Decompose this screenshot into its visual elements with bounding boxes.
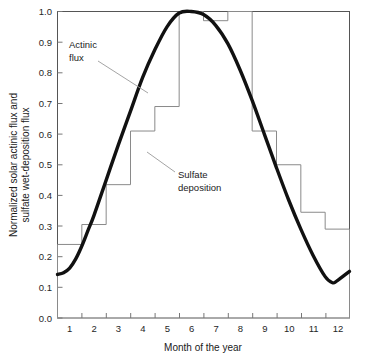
actinic-flux-leader-line [98, 61, 148, 93]
x-tick-label: 6 [189, 323, 194, 334]
y-tick-label: 0.3 [39, 221, 52, 232]
y-axis-title-line1: Normalized solar actinic flux and [8, 93, 19, 237]
actinic-flux-annotation: Actinic flux [69, 39, 148, 93]
x-tick-label: 10 [284, 323, 295, 334]
x-tick-label: 4 [140, 323, 145, 334]
actinic-flux-label-line2: flux [69, 52, 84, 63]
x-tick-label: 8 [238, 323, 243, 334]
y-tick-label: 0.4 [39, 190, 52, 201]
y-tick-label: 0.1 [39, 282, 52, 293]
y-axis-title-line2: sulfate wet-deposition flux [20, 107, 31, 222]
y-tick-label: 0.7 [39, 98, 52, 109]
sulfate-deposition-label-line1: Sulfate [178, 169, 208, 180]
x-tick-label: 5 [165, 323, 170, 334]
y-tick-label: 1.0 [39, 6, 52, 17]
actinic-flux-curve [58, 11, 350, 283]
x-tick-label: 2 [91, 323, 96, 334]
y-axis-title: Normalized solar actinic flux and sulfat… [8, 93, 31, 237]
plot-frame [58, 12, 350, 319]
y-axis-tick-labels: 0.0 0.1 0.2 0.3 0.4 0.5 0.6 0.7 0.8 0.9 … [39, 6, 52, 324]
x-tick-label: 9 [262, 323, 267, 334]
sulfate-deposition-annotation: Sulfate deposition [147, 152, 221, 193]
sulfate-deposition-label-line2: deposition [178, 182, 221, 193]
y-tick-label: 0.0 [39, 313, 52, 324]
chart-figure: 0.0 0.1 0.2 0.3 0.4 0.5 0.6 0.7 0.8 0.9 … [0, 0, 367, 358]
x-tick-label: 3 [116, 323, 121, 334]
x-tick-label: 7 [213, 323, 218, 334]
actinic-flux-label-line1: Actinic [69, 39, 97, 50]
y-tick-label: 0.9 [39, 37, 52, 48]
y-tick-label: 0.5 [39, 159, 52, 170]
x-tick-label: 12 [333, 323, 344, 334]
chart-plot: 0.0 0.1 0.2 0.3 0.4 0.5 0.6 0.7 0.8 0.9 … [0, 0, 367, 358]
x-axis-tick-labels: 1 2 3 4 5 6 7 8 9 10 11 12 [67, 323, 343, 334]
y-tick-label: 0.6 [39, 129, 52, 140]
x-axis-ticks [82, 313, 326, 318]
x-tick-label: 1 [67, 323, 72, 334]
y-tick-label: 0.8 [39, 67, 52, 78]
sulfate-deposition-leader-line [147, 152, 175, 172]
x-tick-label: 11 [309, 323, 319, 334]
sulfate-deposition-step-series [58, 12, 350, 319]
y-tick-label: 0.2 [39, 251, 52, 262]
x-axis-title: Month of the year [164, 342, 242, 353]
